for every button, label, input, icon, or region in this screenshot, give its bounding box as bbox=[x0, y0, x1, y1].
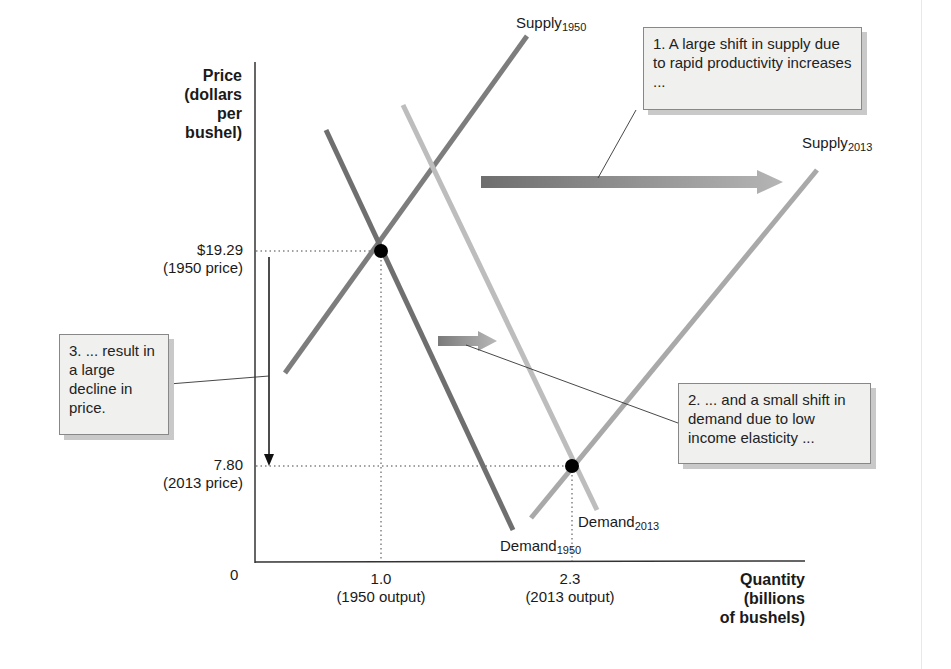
x-axis bbox=[255, 561, 805, 562]
x-tick-1950-caption: (1950 output) bbox=[321, 588, 441, 606]
x-axis-title-line: Quantity bbox=[720, 570, 805, 589]
curve-label-year: 2013 bbox=[848, 141, 872, 153]
demand-2013-line bbox=[403, 105, 597, 510]
x-tick-2013-caption: (2013 output) bbox=[505, 588, 635, 606]
callout-price-decline: 3. ... result in a large decline in pric… bbox=[59, 334, 169, 435]
curve-label-main: Supply bbox=[802, 134, 848, 151]
x-tick-1950: 1.0 (1950 output) bbox=[321, 570, 441, 606]
supply-1950-label: Supply1950 bbox=[516, 14, 586, 36]
x-axis-title-line: of bushels) bbox=[720, 608, 805, 627]
price-decline-arrowhead bbox=[264, 454, 274, 466]
curve-label-year: 1950 bbox=[557, 544, 581, 556]
curve-label-main: Demand bbox=[578, 513, 635, 530]
x-axis-title: Quantity (billions of bushels) bbox=[720, 570, 805, 627]
origin-label: 0 bbox=[230, 566, 238, 584]
demand-1950-line bbox=[326, 130, 513, 530]
page-edge-divider bbox=[921, 0, 922, 669]
equilibrium-1950-point bbox=[374, 244, 388, 258]
callout-3-leader bbox=[169, 376, 269, 384]
demand-1950-label: Demand1950 bbox=[500, 537, 581, 559]
y-axis-title-line: Price bbox=[184, 66, 242, 85]
supply-2013-label: Supply2013 bbox=[802, 134, 872, 156]
callout-supply-shift: 1. A large shift in supply due to rapid … bbox=[643, 27, 862, 110]
y-axis-title: Price (dollars per bushel) bbox=[184, 66, 242, 142]
demand-shift-arrow bbox=[438, 331, 497, 351]
y-axis-title-line: bushel) bbox=[184, 123, 242, 142]
demand-2013-label: Demand2013 bbox=[578, 513, 659, 535]
y-axis-title-line: per bbox=[184, 104, 242, 123]
callout-1-leader bbox=[598, 110, 636, 178]
x-axis-title-line: (billions bbox=[720, 589, 805, 608]
y-tick-1950-value: $19.29 bbox=[163, 241, 243, 259]
x-tick-2013: 2.3 (2013 output) bbox=[505, 570, 635, 606]
curve-label-main: Demand bbox=[500, 537, 557, 554]
callout-2-leader bbox=[466, 345, 678, 423]
y-tick-2013-caption: (2013 price) bbox=[163, 474, 243, 492]
callout-demand-shift: 2. ... and a small shift in demand due t… bbox=[678, 383, 871, 464]
y-tick-2013: 7.80 (2013 price) bbox=[163, 456, 243, 492]
curve-label-year: 1950 bbox=[562, 21, 586, 33]
x-tick-1950-value: 1.0 bbox=[321, 570, 441, 588]
y-tick-1950: $19.29 (1950 price) bbox=[163, 241, 243, 277]
y-axis-title-line: (dollars bbox=[184, 85, 242, 104]
y-tick-2013-value: 7.80 bbox=[163, 456, 243, 474]
x-tick-2013-value: 2.3 bbox=[505, 570, 635, 588]
supply-1950-line bbox=[285, 36, 527, 373]
y-tick-1950-caption: (1950 price) bbox=[163, 259, 243, 277]
supply-shift-arrow bbox=[481, 170, 783, 194]
curve-label-year: 2013 bbox=[635, 520, 659, 532]
equilibrium-2013-point bbox=[565, 459, 579, 473]
curve-label-main: Supply bbox=[516, 14, 562, 31]
